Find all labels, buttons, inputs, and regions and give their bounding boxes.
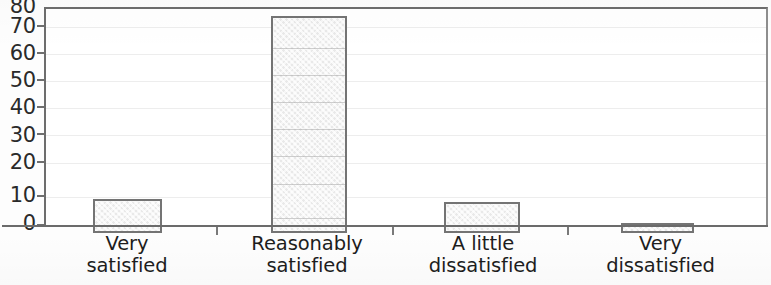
y-axis-tick-label: 50 xyxy=(0,70,36,91)
x-axis-category-label: Reasonably satisfied xyxy=(222,233,392,277)
gridline xyxy=(46,108,766,109)
bar-gridline xyxy=(273,184,345,185)
gridline xyxy=(46,163,766,164)
bar-chart: 80 70 60 50 40 30 20 10 0 xyxy=(0,0,771,285)
x-axis-line xyxy=(2,225,768,227)
gridline xyxy=(46,135,766,136)
bar-gridline xyxy=(273,75,345,76)
x-axis-tick xyxy=(392,227,394,235)
category-label-line2: dissatisfied xyxy=(398,255,568,277)
y-axis-tick-label: 20 xyxy=(0,152,36,173)
bar-a-little-dissatisfied xyxy=(444,202,520,233)
x-axis-category-label: Very dissatisfied xyxy=(573,233,748,277)
bar-very-satisfied xyxy=(93,199,162,233)
x-axis-category-label: Very satisfied xyxy=(47,233,207,277)
bar-reasonably-satisfied xyxy=(271,16,347,233)
y-axis-labels: 80 70 60 50 40 30 20 10 0 xyxy=(0,0,36,285)
y-axis-tick-label: 60 xyxy=(0,43,36,64)
bar-gridline xyxy=(273,218,345,219)
category-label-line1: Reasonably xyxy=(251,232,362,255)
bar-gridline xyxy=(273,102,345,103)
category-label-line2: dissatisfied xyxy=(573,255,748,277)
category-label-line1: Very xyxy=(639,232,682,255)
plot-area xyxy=(44,7,768,225)
x-axis-category-label: A little dissatisfied xyxy=(398,233,568,277)
gridline xyxy=(46,81,766,82)
bar-gridline xyxy=(273,48,345,49)
gridline xyxy=(46,54,766,55)
x-axis-tick xyxy=(216,227,218,235)
gridline xyxy=(46,27,766,28)
category-label-line1: Very xyxy=(106,232,149,255)
y-axis-tick-label: 40 xyxy=(0,97,36,118)
y-axis-tick-label: 70 xyxy=(0,16,36,37)
y-axis-tick-label: 30 xyxy=(0,125,36,146)
y-axis-tick-label: 10 xyxy=(0,185,36,206)
y-axis-tick-label: 0 xyxy=(0,213,36,234)
bar-gridline xyxy=(273,156,345,157)
category-label-line1: A little xyxy=(452,232,514,255)
gridline xyxy=(46,197,766,198)
category-label-line2: satisfied xyxy=(47,255,207,277)
category-label-line2: satisfied xyxy=(222,255,392,277)
bar-gridline xyxy=(273,129,345,130)
